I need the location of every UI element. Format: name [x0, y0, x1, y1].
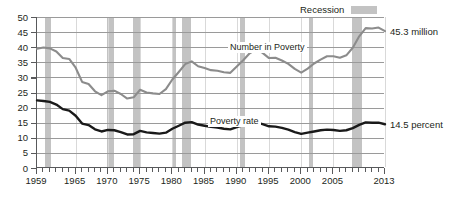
x-axis-minor-tick	[294, 168, 295, 172]
x-axis-minor-tick	[62, 168, 63, 172]
x-axis-major-tick	[384, 168, 385, 174]
x-axis-tick-label: 2000	[290, 176, 311, 186]
plot-inner	[37, 17, 384, 167]
x-axis-minor-tick	[216, 168, 217, 172]
x-axis-minor-tick	[320, 168, 321, 172]
x-axis-tick-label: 1995	[257, 176, 278, 186]
x-axis-minor-tick	[262, 168, 263, 172]
x-axis-minor-tick	[68, 168, 69, 172]
y-axis-tick-label: 10	[17, 133, 28, 143]
x-axis-minor-tick	[229, 168, 230, 172]
end-label-poverty-rate: 14.5 percent	[390, 120, 443, 130]
x-axis-minor-tick	[146, 168, 147, 172]
x-axis-minor-tick	[326, 168, 327, 172]
x-axis-minor-tick	[255, 168, 256, 172]
x-axis-major-tick	[139, 168, 140, 174]
x-axis-major-tick	[236, 168, 237, 174]
x-axis-major-tick	[204, 168, 205, 174]
y-axis-tick-label: 45	[17, 28, 28, 38]
x-axis-minor-tick	[165, 168, 166, 172]
x-axis-minor-tick	[126, 168, 127, 172]
x-axis-minor-tick	[120, 168, 121, 172]
y-axis-tick-label: 40	[17, 43, 28, 53]
y-axis-tick-label: 25	[17, 88, 28, 98]
x-axis-minor-tick	[178, 168, 179, 172]
x-axis-minor-tick	[345, 168, 346, 172]
x-axis-tick-label: 1970	[96, 176, 117, 186]
x-axis-major-tick	[171, 168, 172, 174]
x-axis-minor-tick	[184, 168, 185, 172]
end-label-number-in-poverty: 45.3 million	[390, 27, 438, 37]
x-axis-minor-tick	[158, 168, 159, 172]
x-axis-major-tick	[75, 168, 76, 174]
vertical-gridline	[385, 17, 386, 167]
series-layer	[37, 17, 385, 168]
x-axis-minor-tick	[42, 168, 43, 172]
legend-label-recession: Recession	[300, 5, 344, 15]
x-axis-major-tick	[268, 168, 269, 174]
x-axis-minor-tick	[152, 168, 153, 172]
x-axis-minor-tick	[339, 168, 340, 172]
y-axis-tick-label: 5	[23, 148, 28, 158]
x-axis-minor-tick	[242, 168, 243, 172]
annotation-poverty-rate: Poverty rate	[208, 116, 261, 127]
y-axis-tick-label: 15	[17, 118, 28, 128]
x-axis-tick-label: 1965	[64, 176, 85, 186]
x-axis-minor-tick	[100, 168, 101, 172]
x-axis-minor-tick	[249, 168, 250, 172]
x-axis-minor-tick	[313, 168, 314, 172]
annotation-number-in-poverty: Number in Poverty	[228, 42, 307, 53]
y-axis-tick-label: 20	[17, 103, 28, 113]
x-axis-tick-label: 1990	[225, 176, 246, 186]
y-axis: 05101520253035404550	[0, 0, 34, 202]
y-axis-tick-label: 35	[17, 58, 28, 68]
x-axis-minor-tick	[371, 168, 372, 172]
x-axis-minor-tick	[55, 168, 56, 172]
x-axis-minor-tick	[287, 168, 288, 172]
x-axis-major-tick	[36, 168, 37, 174]
legend-swatch-recession	[351, 6, 377, 14]
y-axis-tick-label: 50	[17, 13, 28, 23]
x-axis-tick-label: 2005	[322, 176, 343, 186]
series-line-number-in-poverty	[37, 28, 385, 99]
x-axis-minor-tick	[49, 168, 50, 172]
x-axis-minor-tick	[281, 168, 282, 172]
x-axis-minor-tick	[274, 168, 275, 172]
x-axis-minor-tick	[81, 168, 82, 172]
x-axis-minor-tick	[88, 168, 89, 172]
y-axis-tick-label: 0	[23, 164, 28, 174]
x-axis-major-tick	[332, 168, 333, 174]
x-axis-minor-tick	[133, 168, 134, 172]
x-axis-tick-label: 2013	[373, 176, 394, 186]
x-axis-minor-tick	[378, 168, 379, 172]
x-axis-minor-tick	[358, 168, 359, 172]
x-axis-major-tick	[107, 168, 108, 174]
chart-legend: Recession	[300, 3, 377, 16]
x-axis-major-tick	[300, 168, 301, 174]
x-axis-minor-tick	[197, 168, 198, 172]
poverty-chart-figure: Recession 05101520253035404550 195919651…	[0, 0, 450, 202]
y-axis-tick-label: 30	[17, 73, 28, 83]
x-axis-minor-tick	[94, 168, 95, 172]
x-axis-tick-label: 1959	[25, 176, 46, 186]
x-axis-minor-tick	[113, 168, 114, 172]
x-axis-minor-tick	[307, 168, 308, 172]
x-axis-minor-tick	[352, 168, 353, 172]
x-axis-tick-label: 1980	[161, 176, 182, 186]
x-axis-minor-tick	[223, 168, 224, 172]
x-axis-minor-tick	[191, 168, 192, 172]
plot-area	[36, 17, 384, 168]
x-axis-minor-tick	[210, 168, 211, 172]
x-axis-minor-tick	[365, 168, 366, 172]
x-axis-tick-label: 1985	[193, 176, 214, 186]
x-axis-tick-label: 1975	[129, 176, 150, 186]
